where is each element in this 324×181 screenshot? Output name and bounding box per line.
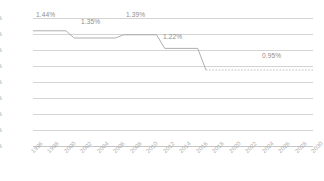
data-label-4: 0.95% (262, 52, 281, 59)
data-label-1: 1.35% (81, 18, 100, 25)
data-label-3: 1.22% (163, 33, 182, 40)
data-label-0: 1.44% (36, 11, 55, 18)
data-label-2: 1.39% (126, 11, 145, 18)
